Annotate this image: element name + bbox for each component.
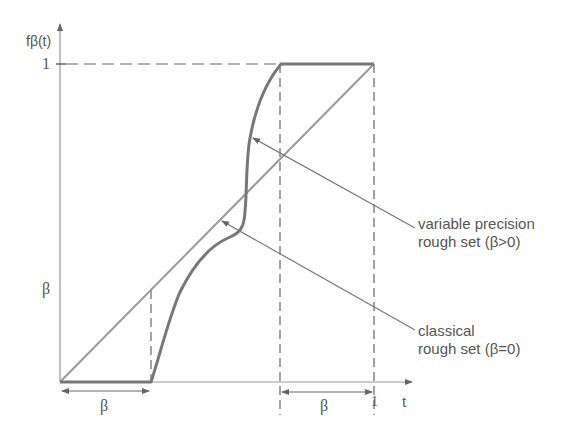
classical-annotation: classical rough set (β=0) bbox=[418, 322, 520, 358]
x-tick-one-label: 1 bbox=[371, 393, 378, 411]
variable-precision-annotation: variable precision rough set (β>0) bbox=[418, 215, 535, 251]
variable-precision-line2: rough set (β>0) bbox=[418, 233, 535, 251]
y-axis-label: fβ(t) bbox=[26, 32, 51, 50]
classical-rough-set-diagonal bbox=[60, 64, 374, 382]
right-interval-beta-label: β bbox=[320, 397, 328, 415]
left-interval-beta-label: β bbox=[100, 397, 108, 415]
variable-precision-line1: variable precision bbox=[418, 215, 535, 233]
classical-pointer bbox=[222, 221, 415, 330]
classical-line2: rough set (β=0) bbox=[418, 340, 520, 358]
classical-line1: classical bbox=[418, 322, 520, 340]
variable-precision-pointer bbox=[253, 138, 415, 228]
y-tick-one-label: 1 bbox=[42, 55, 50, 73]
y-tick-beta-label: β bbox=[42, 280, 50, 298]
x-axis-label: t bbox=[402, 393, 406, 411]
